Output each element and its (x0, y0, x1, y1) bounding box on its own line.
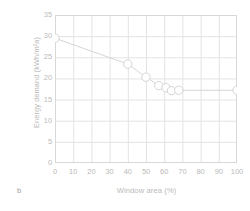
y-tick-label: 35 (30, 11, 52, 18)
y-tick-label: 25 (30, 53, 52, 60)
plot-svg (55, 15, 237, 163)
x-tick-label: 100 (225, 168, 249, 175)
data-point-marker (55, 34, 59, 42)
y-tick-label: 30 (30, 32, 52, 39)
x-axis-label: Window area (%) (55, 186, 238, 195)
grid-lines (55, 15, 237, 163)
chart-figure: Energy demand (kWh/m²a) 05101520253035 0… (0, 0, 250, 211)
y-tick-label: 15 (30, 96, 52, 103)
panel-letter: b (17, 186, 21, 195)
y-tick-label: 5 (30, 138, 52, 145)
data-point-marker (124, 60, 132, 68)
data-point-marker (142, 73, 150, 81)
data-point-marker (175, 86, 183, 94)
y-tick-label: 10 (30, 117, 52, 124)
y-axis-tick-labels: 05101520253035 (27, 15, 52, 163)
y-tick-label: 0 (30, 159, 52, 166)
x-axis-tick-labels: 0102030405060708090100 (55, 168, 237, 180)
y-tick-label: 20 (30, 74, 52, 81)
plot-area (55, 15, 237, 163)
data-point-marker (233, 86, 237, 94)
